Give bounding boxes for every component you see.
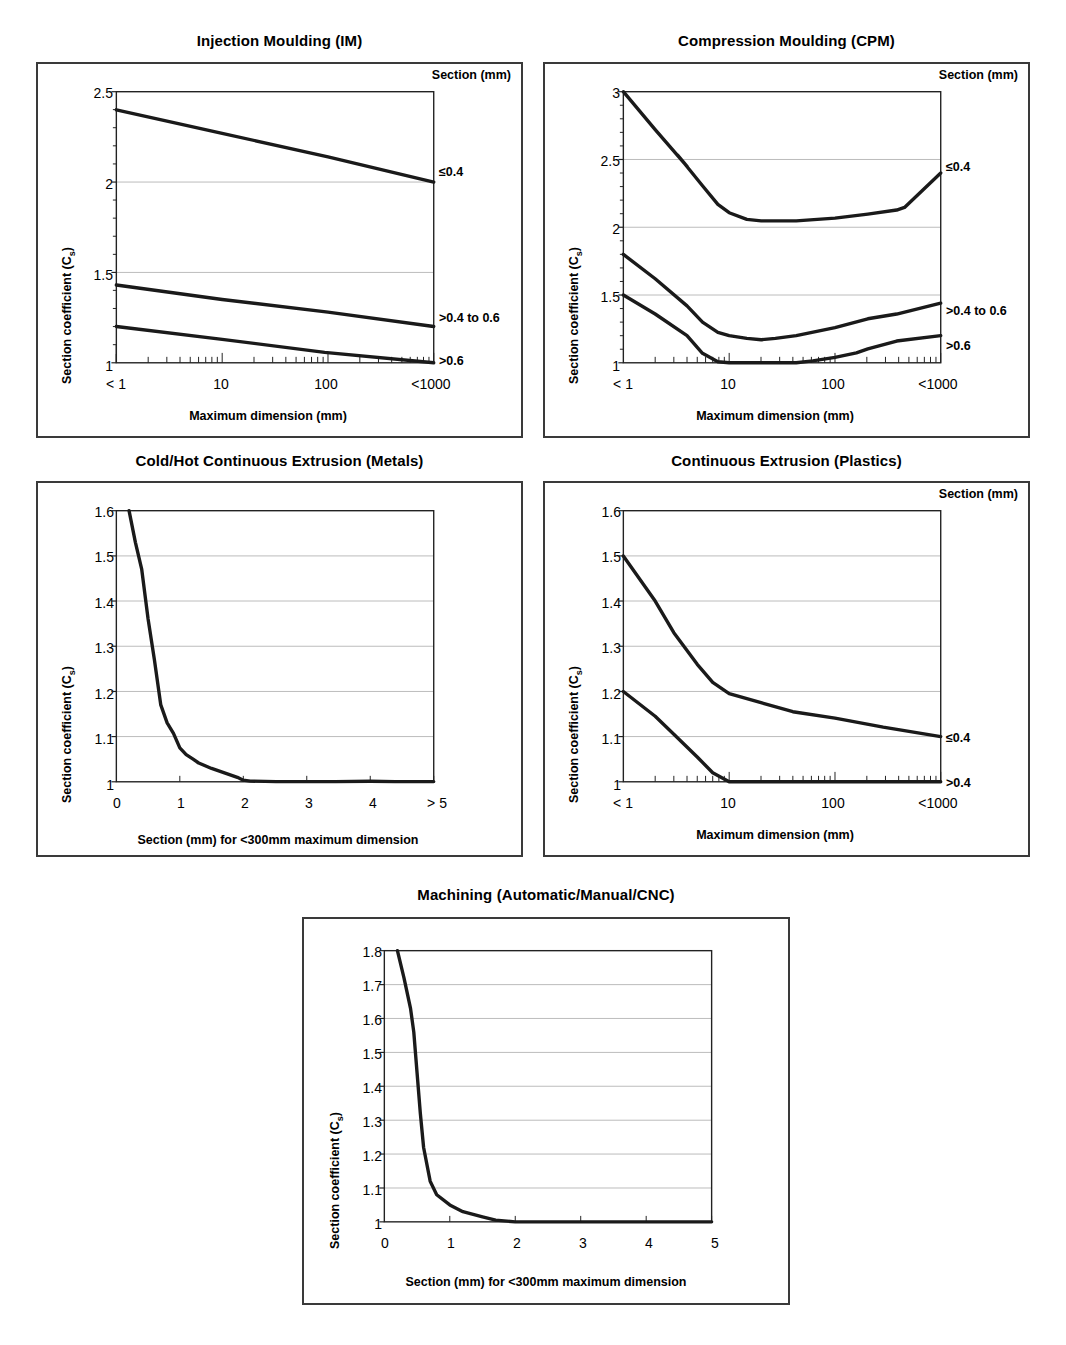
panel-machining: Section coefficient (Cs) 1 1.1 1.2 1.3 1… [302,917,790,1305]
panel-title-compression-moulding: Compression Moulding (CPM) [543,32,1030,49]
panel-cold-hot-extrusion: Section coefficient (Cs) 1 1.1 1.2 1.3 1… [36,481,523,857]
plot-area-injection-moulding [38,64,521,436]
panel-injection-moulding: Section (mm) Section coefficient (Cs) 1 … [36,62,523,438]
plot-area-compression-moulding [545,64,1028,436]
panel-compression-moulding: Section (mm) Section coefficient (Cs) 1 … [543,62,1030,438]
panel-title-injection-moulding: Injection Moulding (IM) [36,32,523,49]
plot-area-continuous-extrusion-plastics [545,483,1028,855]
panel-title-machining: Machining (Automatic/Manual/CNC) [302,886,790,903]
plot-area-cold-hot-extrusion [38,483,521,855]
panel-title-continuous-extrusion-plastics: Continuous Extrusion (Plastics) [543,452,1030,469]
panel-title-cold-hot-extrusion: Cold/Hot Continuous Extrusion (Metals) [36,452,523,469]
panel-continuous-extrusion-plastics: Section (mm) Section coefficient (Cs) 1 … [543,481,1030,857]
plot-area-machining [304,919,788,1303]
